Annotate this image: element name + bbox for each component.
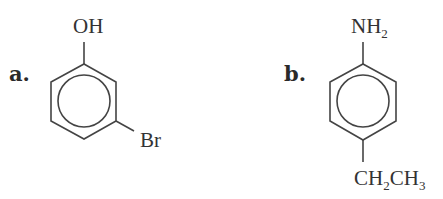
structure-a: a. OH Br bbox=[9, 14, 161, 152]
label-a: a. bbox=[9, 61, 30, 86]
aromatic-circle-b bbox=[337, 75, 389, 127]
nh2-subscript: 2 bbox=[381, 26, 388, 41]
structure-b: b. NH2 CH2CH3 bbox=[284, 14, 425, 193]
substituent-oh: OH bbox=[73, 14, 103, 38]
ch-text-1: CH bbox=[354, 166, 383, 190]
substituent-br: Br bbox=[140, 128, 161, 152]
ch3-subscript: 3 bbox=[419, 178, 426, 193]
label-b: b. bbox=[284, 61, 306, 86]
nh-text: NH bbox=[351, 14, 381, 38]
bond-br bbox=[116, 121, 134, 131]
substituent-nh2: NH2 bbox=[351, 14, 388, 41]
diagram-canvas: a. OH Br b. NH2 CH2CH3 bbox=[0, 0, 443, 199]
ch-text-2: CH bbox=[390, 166, 419, 190]
substituent-ethyl: CH2CH3 bbox=[354, 166, 425, 193]
aromatic-circle-a bbox=[58, 75, 110, 127]
